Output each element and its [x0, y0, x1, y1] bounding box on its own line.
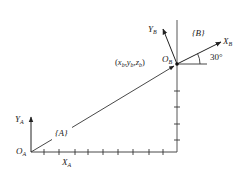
- position-vector-label: (xb,yb,zb): [115, 58, 145, 68]
- coordinate-frames-diagram: [0, 0, 244, 175]
- rotation-angle-label: 30°: [210, 53, 223, 62]
- y-axis-b-label: YB: [148, 25, 157, 35]
- origin-b-label: OB: [162, 55, 172, 65]
- frame-b-label: {B}: [192, 29, 205, 38]
- x-axis-b-label: XB: [223, 37, 232, 47]
- position-vector-arrow: [72, 66, 174, 128]
- x-axis-a-label: XA: [62, 158, 71, 168]
- position-vector-segment-1: [31, 140, 52, 153]
- frame-a-label: {A}: [55, 129, 68, 138]
- origin-a-label: OA: [16, 147, 26, 157]
- y-axis-a-label: YA: [15, 115, 24, 125]
- origin-b-dot: [175, 62, 179, 66]
- angle-arc: [198, 54, 201, 65]
